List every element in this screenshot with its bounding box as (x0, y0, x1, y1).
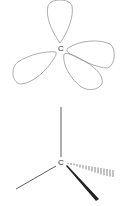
carbon-label-bottom: C (58, 158, 64, 167)
wedge-dash-diagram (16, 107, 113, 201)
orbital-lobe-top (47, 0, 72, 43)
orbital-lobe-left (13, 52, 56, 84)
diagram-canvas: C C (0, 0, 122, 206)
orbital-lobe-right-upper (67, 41, 114, 68)
bond-solid-wedge (66, 165, 99, 201)
orbital-lobe-right-lower (64, 54, 103, 90)
bond-left (16, 166, 56, 189)
carbon-label-top: C (58, 44, 64, 53)
